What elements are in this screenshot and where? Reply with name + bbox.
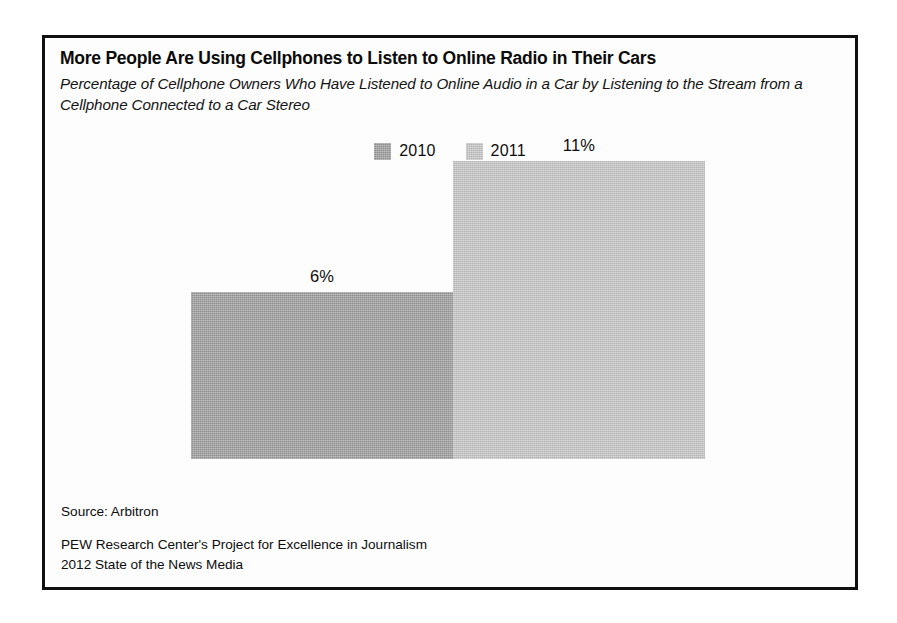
credit-line-report: 2012 State of the News Media bbox=[61, 555, 427, 574]
credit-line-organization: PEW Research Center's Project for Excell… bbox=[61, 535, 427, 554]
bar-2011-texture bbox=[453, 161, 705, 459]
bar-2010[interactable] bbox=[191, 292, 453, 459]
bar-2011[interactable] bbox=[453, 161, 705, 459]
bar-value-label-2011: 11% bbox=[453, 136, 705, 155]
bar-value-label-2010: 6% bbox=[191, 267, 453, 286]
chart-figure: More People Are Using Cellphones to List… bbox=[42, 35, 858, 590]
bar-2010-texture bbox=[191, 292, 453, 459]
source-note: Source: Arbitron bbox=[61, 504, 427, 519]
chart-footer: Source: Arbitron PEW Research Center's P… bbox=[61, 504, 427, 574]
